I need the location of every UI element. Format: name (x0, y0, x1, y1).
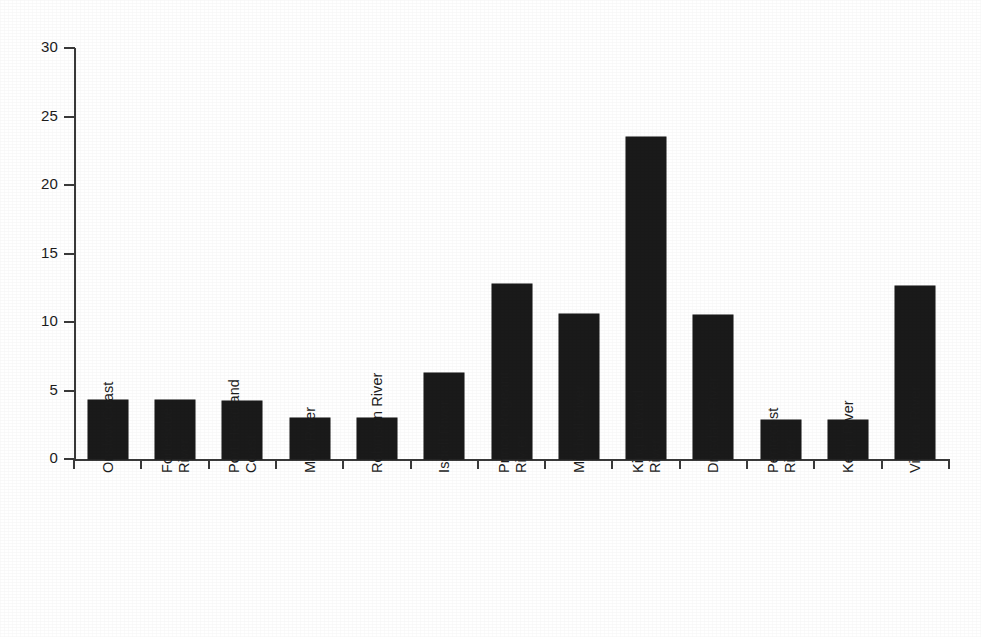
x-axis-tick (544, 459, 546, 469)
x-axis-label: Victoria River (907, 386, 924, 473)
x-axis-tick (813, 459, 815, 469)
x-axis-tick (275, 459, 277, 469)
x-axis-label-line: Prince Regeant (496, 372, 513, 473)
x-axis-tick (208, 459, 210, 469)
x-axis-label-line: River (176, 408, 193, 473)
x-axis-tick (73, 459, 75, 469)
x-axis-tick (746, 459, 748, 469)
y-axis-tick-label: 5 (20, 381, 58, 398)
bar-chart-plot: 051015202530 Onslow CoastFortescueRiverP… (0, 0, 981, 637)
y-axis-tick-label: 10 (20, 312, 58, 329)
x-axis-label-line: May River (302, 407, 319, 473)
y-axis-tick (64, 321, 75, 323)
x-axis-label: Keep River (840, 400, 857, 473)
y-axis-tick (64, 116, 75, 118)
chart-figure: 051015202530 Onslow CoastFortescueRiverP… (0, 0, 981, 637)
x-axis-label-line: Pentecost (765, 408, 782, 473)
x-axis-label: Prince RegeantRiv er (496, 372, 530, 473)
x-axis-label-line: Victoria River (907, 386, 924, 473)
x-axis-label: PentecostRiver (765, 408, 799, 473)
x-axis-tick (611, 459, 613, 469)
x-axis-label-line: Onslow Coast (100, 382, 117, 473)
x-axis-label-line: Isdell River (436, 400, 453, 473)
x-axis-tick (477, 459, 479, 469)
x-axis-label: Robinson River (369, 372, 386, 473)
y-axis-tick (64, 253, 75, 255)
y-axis-tick-label: 15 (20, 244, 58, 261)
x-axis-tick (410, 459, 412, 469)
x-axis-label: Onslow Coast (100, 382, 117, 473)
y-axis-tick-label: 25 (20, 107, 58, 124)
x-axis-label-line: Keep River (840, 400, 857, 473)
x-axis-label-line: River (647, 390, 664, 473)
y-axis-tick-label: 20 (20, 175, 58, 192)
x-axis-label-line: Port Headland (226, 379, 243, 473)
x-axis-label: May River (302, 407, 319, 473)
x-axis-label-line: Drysdale River (705, 377, 722, 473)
y-axis-tick (64, 184, 75, 186)
x-axis-tick (679, 459, 681, 469)
x-axis-label-line: Coast (243, 379, 260, 473)
x-axis-tick (140, 459, 142, 469)
x-axis-label-line: Riv er (513, 372, 530, 473)
x-axis-label-line: Mitchell River (571, 385, 588, 473)
x-axis-label: FortescueRiver (159, 408, 193, 473)
y-axis-tick-label: 0 (20, 449, 58, 466)
x-axis-tick (948, 459, 950, 469)
x-axis-tick (342, 459, 344, 469)
x-axis-label-line: Robinson River (369, 372, 386, 473)
x-axis-label: Mitchell River (571, 385, 588, 473)
x-axis-tick (881, 459, 883, 469)
x-axis-label: Drysdale River (705, 377, 722, 473)
x-axis-label: Isdell River (436, 400, 453, 473)
y-axis-tick-label: 30 (20, 38, 58, 55)
x-axis-label: King EdwardRiver (630, 390, 664, 473)
x-axis-label-line: Fortescue (159, 408, 176, 473)
y-axis-tick (64, 390, 75, 392)
y-axis-tick (64, 47, 75, 49)
x-axis-label: Port HeadlandCoast (226, 379, 260, 473)
x-axis-label-line: King Edward (630, 390, 647, 473)
x-axis-label-line: River (782, 408, 799, 473)
